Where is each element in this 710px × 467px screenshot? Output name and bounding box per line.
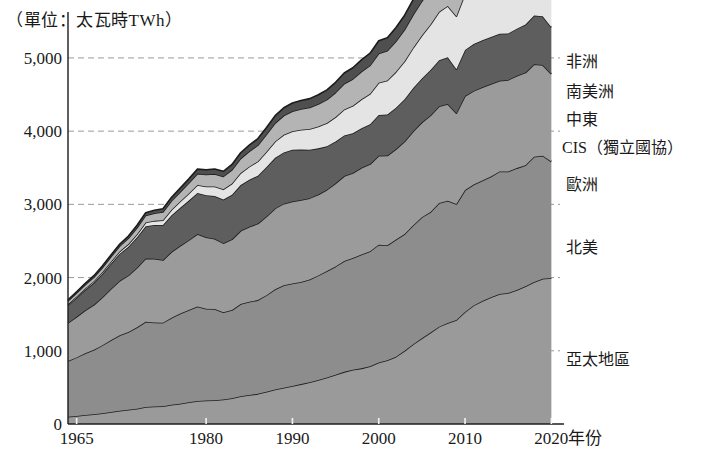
series-label-africa: 非洲 <box>566 54 598 70</box>
plot-area <box>0 0 710 467</box>
y-axis-tick: 2,000 <box>4 269 62 286</box>
x-axis-tick: 1980 <box>189 430 223 447</box>
stacked-area-chart: （單位：太瓦時TWh） 01,0002,0003,0004,0005,000 1… <box>0 0 710 467</box>
y-axis-tick: 0 <box>4 416 62 433</box>
x-axis-title: 年份 <box>568 430 602 447</box>
series-label-middle-east: 中東 <box>566 112 598 128</box>
y-axis-tick: 3,000 <box>4 196 62 213</box>
series-label-cis: CIS（獨立國協） <box>562 140 683 156</box>
x-axis-tick: 2000 <box>362 430 396 447</box>
x-axis-tick: 2020 <box>534 430 568 447</box>
series-label-north-america: 北美 <box>566 240 598 256</box>
series-label-europe: 歐洲 <box>566 177 598 193</box>
y-axis-tick: 5,000 <box>4 49 62 66</box>
y-axis-tick: 1,000 <box>4 342 62 359</box>
series-label-south-america: 南美洲 <box>566 84 614 100</box>
y-axis-labels: 01,0002,0003,0004,0005,000 <box>0 0 62 467</box>
series-label-asia-pacific: 亞太地區 <box>566 352 630 368</box>
x-axis-tick: 1965 <box>60 430 94 447</box>
x-axis-tick: 2010 <box>448 430 482 447</box>
x-axis-tick: 1990 <box>275 430 309 447</box>
y-axis-tick: 4,000 <box>4 123 62 140</box>
